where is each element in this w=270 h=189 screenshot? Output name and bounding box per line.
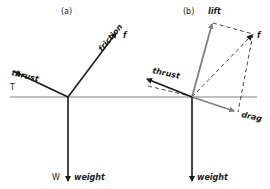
weight-label-a: weight [74,173,106,182]
thrust-arrow-b [147,79,192,97]
thrust-label-a: thrust [11,68,41,84]
dashed-lift-to-resultant [213,23,253,34]
force-diagram: (a) thrust T friction f W weight (b) lif… [0,0,270,189]
resultant-symbol-b: f [257,31,262,40]
friction-symbol-a: f [123,31,128,40]
panel-a: (a) thrust T friction f W weight [9,7,128,182]
drag-arrow-b [192,97,234,111]
panel-a-label: (a) [61,7,72,16]
panel-b: (b) lift f thrust drag weight [147,7,263,182]
friction-label-a: friction [97,22,125,53]
weight-symbol-a: W [52,173,60,182]
lift-label-b: lift [208,7,222,16]
dashed-resultant-to-drag [238,34,253,112]
thrust-symbol-a: T [9,83,15,92]
thrust-label-b: thrust [152,66,182,81]
drag-label-b: drag [241,110,263,123]
panel-b-label: (b) [183,7,194,16]
weight-label-b: weight [197,173,229,182]
